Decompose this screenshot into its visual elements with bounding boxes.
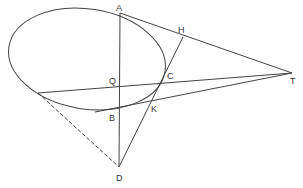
dashed-line-LD xyxy=(38,93,119,167)
line-LT xyxy=(38,73,292,93)
label-D: D xyxy=(116,173,123,183)
ellipse-conic xyxy=(1,0,173,121)
tangent-line-AT xyxy=(120,13,292,73)
line-HD xyxy=(119,37,183,167)
line-AD xyxy=(119,13,120,167)
geometry-diagram: A H Q C T B K D xyxy=(0,0,303,188)
label-B: B xyxy=(109,113,115,123)
label-H: H xyxy=(178,25,185,35)
label-K: K xyxy=(151,104,157,114)
label-C: C xyxy=(167,71,174,81)
label-A: A xyxy=(116,3,122,13)
label-Q: Q xyxy=(109,76,116,86)
label-T: T xyxy=(290,76,296,86)
line-BT xyxy=(95,73,292,112)
